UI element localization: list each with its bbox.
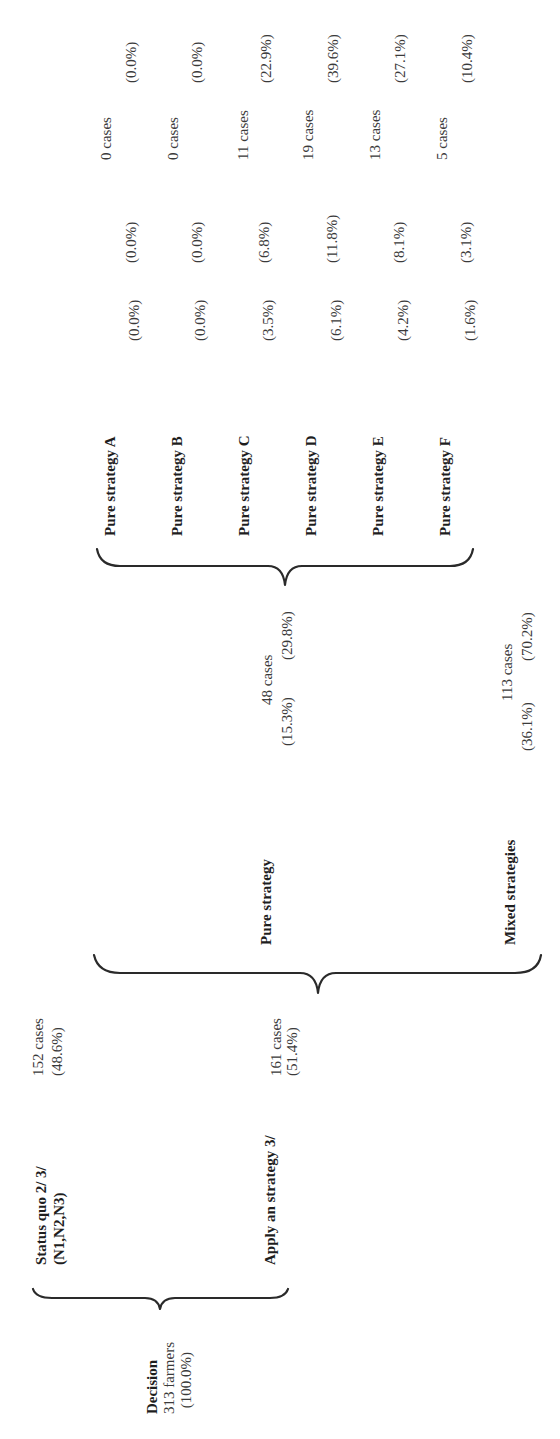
pure-strategy-d-percent-applied: (11.8%) [324,215,341,263]
pure-strategy-label: Pure strategy [258,859,274,945]
pure-strategy-e-percent-pure: (27.1%) [392,34,409,83]
mixed-strategies-percent-applied: (70.2%) [519,612,536,661]
node-pure-strategy: Pure strategy 48 cases (15.3%) (29.8%) [258,611,296,945]
pure-strategy-f-count: 5 cases [434,117,450,160]
apply-strategy-percent: (51.4%) [284,1027,301,1076]
node-pure-strategy-e: Pure strategy E (4.2%) (8.1%) 13 cases (… [367,34,412,536]
pure-strategy-f-label: Pure strategy F [437,437,453,536]
pure-strategy-d-count: 19 cases [300,109,316,160]
decision-tree-diagram: Decision 313 farmers (100.0%) Status quo… [0,0,560,1439]
pure-strategy-d-percent-total: (6.1%) [328,300,345,341]
root-node: Decision 313 farmers (100.0%) [144,1342,195,1414]
status-quo-percent: (48.6%) [49,1027,66,1076]
mixed-strategies-percent-total: (36.1%) [519,702,536,751]
pure-strategy-percent-total: (15.3%) [279,697,296,746]
pure-strategy-percent-applied: (29.8%) [279,611,296,660]
pure-strategy-c-label: Pure strategy C [236,435,252,536]
pure-strategy-a-percent-total: (0.0%) [126,300,143,341]
pure-strategy-c-percent-applied: (6.8%) [256,222,273,263]
brace-apply-strategy [94,955,541,993]
pure-strategy-c-count: 11 cases [235,110,251,160]
pure-strategy-a-count: 0 cases [98,117,114,160]
root-title: Decision [144,1359,160,1414]
pure-strategy-e-percent-applied: (8.1%) [391,222,408,263]
pure-strategy-a-percent-applied: (0.0%) [123,222,140,263]
node-pure-strategy-b: Pure strategy B (0.0%) (0.0%) 0 cases (0… [165,42,209,536]
node-status-quo: Status quo 2/ 3/ (N1,N2,N3) 152 cases (4… [30,1018,68,1265]
node-pure-strategy-c: Pure strategy C (3.5%) (6.8%) 11 cases (… [235,34,277,536]
node-pure-strategy-a: Pure strategy A (0.0%) (0.0%) 0 cases (0… [98,42,143,536]
pure-strategy-a-label: Pure strategy A [102,436,118,536]
root-count: 313 farmers [161,1342,177,1414]
pure-strategy-b-percent-total: (0.0%) [192,300,209,341]
brace-decision [33,1289,288,1309]
pure-strategy-f-percent-applied: (3.1%) [458,222,475,263]
apply-strategy-label: Apply an strategy 3/ [262,1135,278,1265]
mixed-strategies-label: Mixed strategies [502,839,518,945]
node-mixed-strategies: Mixed strategies 113 cases (36.1%) (70.2… [499,612,536,945]
status-quo-sublabel: (N1,N2,N3) [51,1193,68,1266]
mixed-strategies-count: 113 cases [499,643,515,701]
pure-strategy-c-percent-total: (3.5%) [260,300,277,341]
pure-strategy-c-percent-pure: (22.9%) [258,34,275,83]
root-percent: (100.0%) [178,1352,195,1408]
node-apply-strategy: Apply an strategy 3/ 161 cases (51.4%) [262,1018,301,1265]
pure-strategy-a-percent-pure: (0.0%) [123,42,140,83]
brace-pure-strategy [97,549,473,585]
status-quo-count: 152 cases [30,1018,46,1076]
pure-strategy-b-label: Pure strategy B [169,436,185,536]
pure-strategy-e-count: 13 cases [367,109,383,160]
pure-strategy-e-percent-total: (4.2%) [395,300,412,341]
pure-strategy-f-percent-pure: (10.4%) [459,34,476,83]
pure-strategy-d-label: Pure strategy D [303,435,319,536]
pure-strategy-f-percent-total: (1.6%) [462,300,479,341]
node-pure-strategy-f: Pure strategy F (1.6%) (3.1%) 5 cases (1… [434,34,479,536]
apply-strategy-count: 161 cases [268,1018,284,1076]
node-pure-strategy-d: Pure strategy D (6.1%) (11.8%) 19 cases … [300,34,345,536]
pure-strategy-e-label: Pure strategy E [370,436,386,536]
pure-strategy-d-percent-pure: (39.6%) [325,34,342,83]
pure-strategy-count: 48 cases [259,654,275,705]
pure-strategy-b-percent-applied: (0.0%) [189,222,206,263]
pure-strategy-b-percent-pure: (0.0%) [189,42,206,83]
status-quo-label: Status quo 2/ 3/ [33,1165,49,1265]
pure-strategy-b-count: 0 cases [165,117,181,160]
